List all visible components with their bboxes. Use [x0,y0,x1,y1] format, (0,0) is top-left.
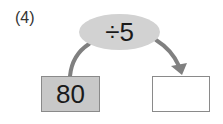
operator-ellipse: ÷5 [79,14,160,50]
input-connector-arc [70,44,89,76]
output-arrow-arc [156,40,179,66]
input-box: 80 [41,76,100,112]
answer-box[interactable] [152,76,210,112]
arrowhead-icon [171,63,187,75]
